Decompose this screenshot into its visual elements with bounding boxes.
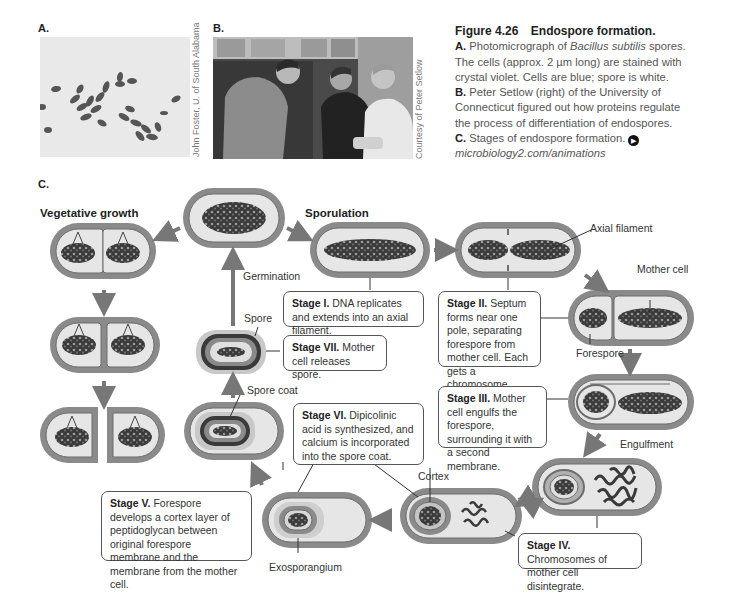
exosporangium-label: Exosporangium <box>269 561 342 573</box>
arrow-stage-iv-to-v <box>524 495 534 501</box>
stage-iv-title: Stage IV. <box>527 539 570 551</box>
stage-ii-title: Stage II. <box>447 297 487 309</box>
dividing-cell-septum <box>50 317 160 373</box>
stage-vi-box: Stage VI. Dipicolinic acid is synthesize… <box>293 403 424 465</box>
sporulation-title: Sporulation <box>305 207 369 219</box>
stage-ii-box: Stage II. Septum forms near one pole, se… <box>438 291 541 367</box>
forespore-mother-cell <box>568 290 694 346</box>
stage-v-cell <box>400 488 522 544</box>
stage-iii-box: Stage III. Mother cell engulfs the fores… <box>438 386 547 448</box>
stage-i-box: Stage I. DNA replicates and extends into… <box>283 291 424 327</box>
stage-iv-cell <box>532 458 662 516</box>
stage-vii-title: Stage VII. <box>292 341 339 353</box>
stage-i-title: Stage I. <box>292 297 329 309</box>
stage-vi-cell <box>262 492 372 548</box>
mother-cell-label: Mother cell <box>637 263 688 275</box>
daughter-cells <box>40 407 165 463</box>
germination-label: Germination <box>243 270 300 282</box>
stage-v-box: Stage V. Forespore develops a cortex lay… <box>101 491 252 561</box>
stage-v-text: Forespore develops a cortex layer of pep… <box>110 497 237 590</box>
stage-v-title: Stage V. <box>110 497 150 509</box>
stage-iv-box: Stage IV. Chromosomes of mother cell dis… <box>518 533 642 569</box>
stage-vii-box: Stage VII. Mother cell releases spore. <box>283 335 387 371</box>
engulfment-label: Engulfment <box>620 438 673 450</box>
vegetative-cell <box>183 188 285 248</box>
spore-coat-label: Spore coat <box>247 384 298 396</box>
stage-i-cell <box>310 222 430 278</box>
stage-iii-cell <box>568 374 694 430</box>
dividing-cell <box>50 223 156 279</box>
stage-ii-cell <box>455 222 581 278</box>
stage-vi-title: Stage VI. <box>302 409 346 421</box>
spore-coat-cell <box>184 402 284 460</box>
forespore-label: Forespore <box>576 347 624 359</box>
axial-filament-label: Axial filament <box>590 222 652 234</box>
stage-iii-title: Stage III. <box>447 392 490 404</box>
spore-label: Spore <box>244 312 272 324</box>
cortex-label: Cortex <box>418 470 449 482</box>
free-spore <box>196 330 266 374</box>
vegetative-growth-title: Vegetative growth <box>40 207 138 219</box>
